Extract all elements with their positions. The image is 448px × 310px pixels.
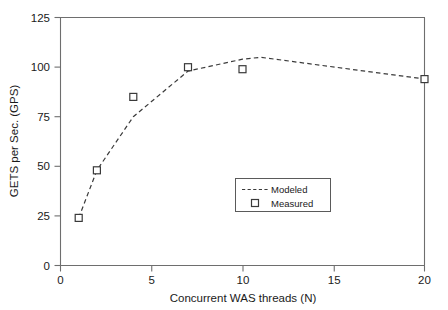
x-tick-label-5: 5	[149, 274, 155, 286]
x-axis-tick-labels: 0 5 10 15 20	[57, 274, 431, 286]
data-point-n4	[130, 93, 137, 100]
x-tick-label-15: 15	[328, 274, 341, 286]
y-axis-tick-labels: 0 25 50 75 100 125	[31, 12, 50, 272]
y-tick-label-50: 50	[37, 160, 50, 172]
x-tick-label-10: 10	[237, 274, 250, 286]
x-tick-label-0: 0	[57, 274, 63, 286]
data-point-n20	[421, 76, 428, 83]
y-tick-label-100: 100	[31, 61, 50, 73]
chart-container: 0 25 50 75 100 125 0 5 10 15 20 Concurre…	[0, 0, 448, 310]
legend-swatch-measured-icon	[252, 200, 259, 207]
y-tick-label-0: 0	[44, 260, 50, 272]
y-axis-title: GETS per Sec. (GPS)	[8, 85, 20, 198]
y-tick-label-75: 75	[37, 111, 50, 123]
data-point-n1	[75, 214, 82, 221]
chart-svg: 0 25 50 75 100 125 0 5 10 15 20 Concurre…	[0, 0, 448, 310]
legend-label-modeled: Modeled	[271, 184, 307, 195]
y-tick-label-125: 125	[31, 12, 50, 24]
chart-legend: Modeled Measured	[236, 179, 331, 212]
plot-frame	[60, 18, 425, 266]
data-point-n2	[93, 167, 100, 174]
y-axis-ticks	[55, 18, 61, 266]
x-axis-title: Concurrent WAS threads (N)	[170, 292, 317, 304]
x-tick-label-20: 20	[418, 274, 431, 286]
x-axis-ticks	[61, 266, 425, 272]
y-tick-label-25: 25	[37, 210, 50, 222]
legend-label-measured: Measured	[271, 198, 313, 209]
data-point-n10	[239, 66, 246, 73]
data-point-n7	[185, 64, 192, 71]
